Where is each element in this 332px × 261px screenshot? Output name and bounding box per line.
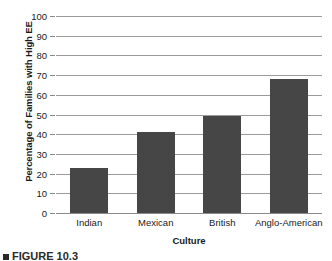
y-axis-tick-mark bbox=[50, 75, 55, 76]
x-axis-tick-label: Anglo-American bbox=[255, 217, 323, 228]
figure-bar-chart: Percentage of Families with High EE 0102… bbox=[0, 0, 332, 261]
bar-british bbox=[203, 116, 241, 213]
y-axis-tick-label: 0 bbox=[42, 208, 47, 219]
gridline bbox=[56, 55, 322, 56]
y-axis-tick-label: 40 bbox=[36, 129, 47, 140]
caption-text: FIGURE 10.3 bbox=[12, 250, 78, 261]
y-axis-tick-label: 90 bbox=[36, 30, 47, 41]
y-axis-tick-label: 60 bbox=[36, 89, 47, 100]
plot-area: 0102030405060708090100IndianMexicanBriti… bbox=[56, 16, 322, 213]
gridline bbox=[56, 36, 322, 37]
y-axis-tick-label: 30 bbox=[36, 148, 47, 159]
x-axis-baseline bbox=[56, 213, 322, 214]
bar-anglo-american bbox=[270, 79, 308, 213]
y-axis-tick-label: 20 bbox=[36, 168, 47, 179]
x-axis-title: Culture bbox=[56, 235, 322, 246]
y-axis-tick-mark bbox=[50, 213, 55, 214]
x-axis-tick-label: Indian bbox=[76, 217, 102, 228]
y-axis-tick-mark bbox=[50, 174, 55, 175]
y-axis-tick-label: 10 bbox=[36, 188, 47, 199]
y-axis-tick-mark bbox=[50, 95, 55, 96]
bar-mexican bbox=[137, 132, 175, 213]
gridline bbox=[56, 16, 322, 17]
y-axis-tick-label: 50 bbox=[36, 109, 47, 120]
bar-indian bbox=[70, 168, 108, 213]
x-axis-tick-label: British bbox=[209, 217, 235, 228]
y-axis-tick-mark bbox=[50, 193, 55, 194]
y-axis-tick-mark bbox=[50, 36, 55, 37]
caption-marker-icon bbox=[3, 254, 9, 260]
figure-caption: FIGURE 10.3 bbox=[3, 250, 78, 261]
y-axis-tick-mark bbox=[50, 16, 55, 17]
y-axis-tick-mark bbox=[50, 115, 55, 116]
gridline bbox=[56, 75, 322, 76]
y-axis-tick-label: 70 bbox=[36, 70, 47, 81]
y-axis-tick-mark bbox=[50, 55, 55, 56]
y-axis-tick-label: 100 bbox=[31, 11, 47, 22]
y-axis-tick-mark bbox=[50, 154, 55, 155]
y-axis-title: Percentage of Families with High EE bbox=[23, 2, 34, 202]
y-axis-tick-mark bbox=[50, 134, 55, 135]
x-axis-tick-label: Mexican bbox=[138, 217, 173, 228]
y-axis-tick-label: 80 bbox=[36, 50, 47, 61]
